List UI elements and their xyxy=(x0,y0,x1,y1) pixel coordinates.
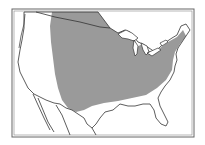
shaded-range-area xyxy=(50,12,186,112)
range-map xyxy=(0,0,205,145)
baja-california xyxy=(33,94,54,132)
